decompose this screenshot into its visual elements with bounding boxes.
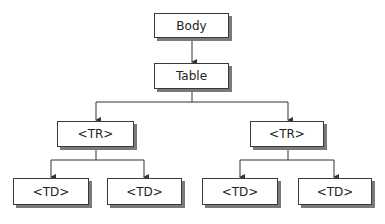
node-body-label: Body xyxy=(176,19,206,33)
node-td-3: <TD> xyxy=(202,178,278,205)
node-table-label: Table xyxy=(176,69,207,83)
node-body: Body xyxy=(154,13,229,38)
node-tr-right-label: <TR> xyxy=(269,127,305,141)
node-td-4: <TD> xyxy=(298,178,372,205)
node-tr-left: <TR> xyxy=(57,121,134,147)
node-table: Table xyxy=(154,63,229,89)
node-td-3-label: <TD> xyxy=(222,185,259,199)
node-tr-right: <TR> xyxy=(250,121,324,147)
node-td-1: <TD> xyxy=(13,178,89,205)
node-tr-left-label: <TR> xyxy=(78,127,114,141)
node-td-2: <TD> xyxy=(107,178,182,205)
node-td-2-label: <TD> xyxy=(126,185,163,199)
node-td-4-label: <TD> xyxy=(317,185,354,199)
tree-diagram: Body Table <TR> <TR> <TD> <TD> <TD> <TD> xyxy=(0,0,385,224)
node-td-1-label: <TD> xyxy=(33,185,70,199)
